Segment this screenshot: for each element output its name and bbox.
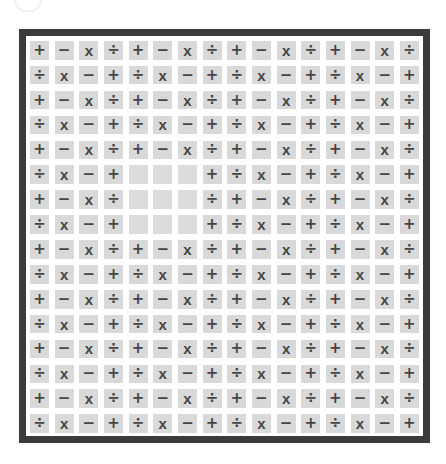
plus-tile[interactable]: + [400, 116, 419, 135]
divide-tile[interactable]: ÷ [326, 165, 345, 184]
plus-tile[interactable]: + [301, 315, 320, 334]
minus-tile[interactable]: − [55, 340, 74, 359]
multiply-tile[interactable]: x [55, 66, 74, 85]
minus-tile[interactable]: − [277, 414, 296, 433]
plus-tile[interactable]: + [227, 240, 246, 259]
divide-tile[interactable]: ÷ [129, 414, 148, 433]
empty-slot[interactable] [129, 215, 148, 234]
multiply-tile[interactable]: x [252, 116, 271, 135]
multiply-tile[interactable]: x [277, 190, 296, 209]
divide-tile[interactable]: ÷ [227, 215, 246, 234]
plus-tile[interactable]: + [129, 41, 148, 60]
divide-tile[interactable]: ÷ [227, 265, 246, 284]
multiply-tile[interactable]: x [79, 190, 98, 209]
plus-tile[interactable]: + [203, 315, 222, 334]
multiply-tile[interactable]: x [55, 116, 74, 135]
multiply-tile[interactable]: x [79, 141, 98, 160]
divide-tile[interactable]: ÷ [301, 389, 320, 408]
plus-tile[interactable]: + [400, 414, 419, 433]
multiply-tile[interactable]: x [277, 290, 296, 309]
plus-tile[interactable]: + [30, 389, 49, 408]
divide-tile[interactable]: ÷ [400, 41, 419, 60]
minus-tile[interactable]: − [277, 165, 296, 184]
plus-tile[interactable]: + [30, 141, 49, 160]
divide-tile[interactable]: ÷ [326, 66, 345, 85]
divide-tile[interactable]: ÷ [400, 340, 419, 359]
plus-tile[interactable]: + [203, 265, 222, 284]
divide-tile[interactable]: ÷ [129, 365, 148, 384]
plus-tile[interactable]: + [400, 215, 419, 234]
multiply-tile[interactable]: x [351, 165, 370, 184]
multiply-tile[interactable]: x [55, 215, 74, 234]
multiply-tile[interactable]: x [178, 389, 197, 408]
plus-tile[interactable]: + [203, 116, 222, 135]
minus-tile[interactable]: − [252, 141, 271, 160]
plus-tile[interactable]: + [30, 290, 49, 309]
plus-tile[interactable]: + [326, 290, 345, 309]
plus-tile[interactable]: + [326, 240, 345, 259]
minus-tile[interactable]: − [277, 365, 296, 384]
divide-tile[interactable]: ÷ [400, 290, 419, 309]
minus-tile[interactable]: − [351, 240, 370, 259]
plus-tile[interactable]: + [30, 41, 49, 60]
plus-tile[interactable]: + [301, 414, 320, 433]
multiply-tile[interactable]: x [178, 290, 197, 309]
plus-tile[interactable]: + [104, 165, 123, 184]
divide-tile[interactable]: ÷ [129, 116, 148, 135]
divide-tile[interactable]: ÷ [104, 290, 123, 309]
minus-tile[interactable]: − [351, 41, 370, 60]
plus-tile[interactable]: + [227, 340, 246, 359]
minus-tile[interactable]: − [79, 66, 98, 85]
minus-tile[interactable]: − [178, 414, 197, 433]
minus-tile[interactable]: − [178, 365, 197, 384]
multiply-tile[interactable]: x [153, 66, 172, 85]
multiply-tile[interactable]: x [277, 240, 296, 259]
multiply-tile[interactable]: x [277, 389, 296, 408]
divide-tile[interactable]: ÷ [227, 116, 246, 135]
minus-tile[interactable]: − [178, 66, 197, 85]
divide-tile[interactable]: ÷ [203, 340, 222, 359]
plus-tile[interactable]: + [301, 165, 320, 184]
minus-tile[interactable]: − [252, 240, 271, 259]
divide-tile[interactable]: ÷ [30, 165, 49, 184]
multiply-tile[interactable]: x [351, 215, 370, 234]
minus-tile[interactable]: − [79, 215, 98, 234]
divide-tile[interactable]: ÷ [326, 215, 345, 234]
plus-tile[interactable]: + [400, 165, 419, 184]
minus-tile[interactable]: − [153, 240, 172, 259]
divide-tile[interactable]: ÷ [400, 141, 419, 160]
plus-tile[interactable]: + [400, 265, 419, 284]
minus-tile[interactable]: − [252, 190, 271, 209]
multiply-tile[interactable]: x [178, 41, 197, 60]
multiply-tile[interactable]: x [178, 141, 197, 160]
multiply-tile[interactable]: x [375, 290, 394, 309]
multiply-tile[interactable]: x [375, 91, 394, 110]
divide-tile[interactable]: ÷ [129, 66, 148, 85]
divide-tile[interactable]: ÷ [30, 215, 49, 234]
minus-tile[interactable]: − [252, 389, 271, 408]
multiply-tile[interactable]: x [55, 365, 74, 384]
minus-tile[interactable]: − [351, 340, 370, 359]
empty-slot[interactable] [153, 165, 172, 184]
minus-tile[interactable]: − [375, 414, 394, 433]
multiply-tile[interactable]: x [351, 265, 370, 284]
multiply-tile[interactable]: x [178, 91, 197, 110]
empty-slot[interactable] [178, 215, 197, 234]
plus-tile[interactable]: + [301, 265, 320, 284]
divide-tile[interactable]: ÷ [104, 41, 123, 60]
minus-tile[interactable]: − [79, 116, 98, 135]
divide-tile[interactable]: ÷ [203, 240, 222, 259]
minus-tile[interactable]: − [153, 340, 172, 359]
divide-tile[interactable]: ÷ [30, 315, 49, 334]
plus-tile[interactable]: + [203, 165, 222, 184]
multiply-tile[interactable]: x [55, 265, 74, 284]
divide-tile[interactable]: ÷ [400, 389, 419, 408]
divide-tile[interactable]: ÷ [301, 190, 320, 209]
multiply-tile[interactable]: x [375, 41, 394, 60]
empty-slot[interactable] [153, 215, 172, 234]
minus-tile[interactable]: − [252, 340, 271, 359]
plus-tile[interactable]: + [104, 365, 123, 384]
divide-tile[interactable]: ÷ [400, 91, 419, 110]
plus-tile[interactable]: + [104, 414, 123, 433]
divide-tile[interactable]: ÷ [30, 414, 49, 433]
